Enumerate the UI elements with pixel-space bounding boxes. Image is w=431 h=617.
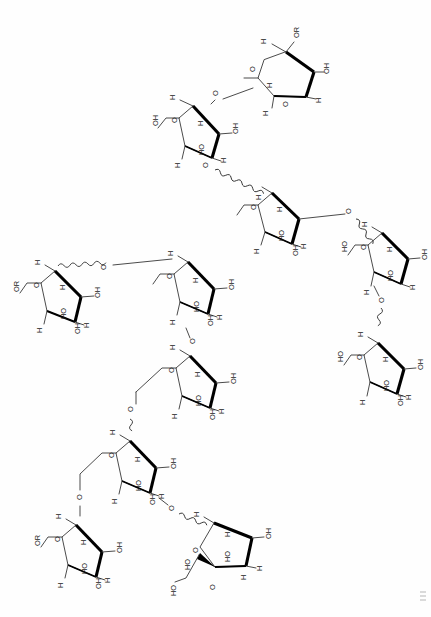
atom-label-oxygen: O bbox=[165, 273, 174, 279]
atom-label: H bbox=[255, 566, 264, 571]
atom-label-oxygen: O bbox=[359, 244, 368, 250]
atom-label-oxygen: O bbox=[211, 90, 220, 96]
atom-label: HO bbox=[277, 230, 286, 241]
ring-7b-center-lower-unit: H O OH H H H HO OH bbox=[136, 345, 238, 420]
atom-label: H bbox=[191, 278, 200, 283]
atom-label: HO bbox=[194, 395, 203, 406]
ring-7-center-main-chain-unit: H O OH H H H HO OH bbox=[153, 251, 236, 326]
link-7-16-glycosidic: O bbox=[126, 392, 136, 431]
atom-label: OH bbox=[229, 373, 238, 384]
atom-label: H bbox=[275, 207, 284, 212]
atom-label-oxygen: O bbox=[201, 162, 210, 168]
atom-label: OH bbox=[169, 458, 178, 469]
atom-label: H bbox=[217, 409, 226, 414]
atom-label: H bbox=[168, 95, 177, 100]
atom-label: H bbox=[79, 540, 88, 545]
link-5-wavy-glycosidic: O bbox=[58, 259, 172, 270]
page-corner-artifact bbox=[420, 591, 426, 605]
atom-label: OH bbox=[73, 323, 82, 334]
atom-label-or: OR bbox=[33, 535, 42, 546]
ring-10-bottom-right-furanose-unit: H O OH H H HO H HO HO O bbox=[169, 512, 273, 596]
atom-label: H bbox=[239, 575, 248, 580]
atom-label: H bbox=[259, 39, 268, 44]
atom-label: H bbox=[362, 290, 371, 295]
atom-label: H bbox=[58, 285, 67, 290]
atom-label: OH bbox=[115, 542, 124, 553]
atom-label-oxygen: O bbox=[249, 204, 258, 210]
atom-label: H bbox=[157, 494, 166, 499]
atom-label: H bbox=[168, 345, 177, 350]
atom-label-oxygen: O bbox=[248, 66, 257, 72]
atom-label: HO bbox=[382, 380, 391, 391]
atom-label: H bbox=[33, 260, 42, 265]
atom-label: OH bbox=[396, 395, 405, 406]
atom-label-oxygen: O bbox=[208, 584, 217, 590]
atom-label-oxygen: O bbox=[188, 338, 197, 344]
atom-label: HO bbox=[59, 308, 68, 319]
atom-label-oxygen: O bbox=[191, 547, 200, 553]
atom-label: H bbox=[133, 457, 142, 462]
atom-label: OH bbox=[93, 287, 102, 298]
atom-label: H bbox=[358, 400, 367, 405]
atom-label: H bbox=[381, 357, 390, 362]
atom-label: HO bbox=[223, 551, 232, 562]
atom-label: H bbox=[252, 249, 261, 254]
atom-label-oxygen: O bbox=[281, 101, 290, 107]
atom-label: H bbox=[170, 414, 179, 419]
atom-label-oxygen: O bbox=[167, 505, 176, 511]
atom-label: H bbox=[56, 583, 65, 588]
ring-5-right-lower-terminal-unit: H O HO OH H H H HO OH bbox=[336, 332, 425, 406]
atom-label: H bbox=[356, 332, 365, 337]
atom-label: H bbox=[193, 372, 202, 377]
atom-label: H bbox=[299, 244, 308, 249]
atom-label-oxygen: O bbox=[355, 354, 364, 360]
atom-label: H bbox=[404, 395, 413, 400]
atom-label: H bbox=[173, 163, 182, 168]
atom-label-oxygen: O bbox=[377, 297, 386, 303]
ring-6-center-left-terminal-unit: H O OR OH H H H HO OH bbox=[12, 260, 102, 334]
atom-label-oxygen: O bbox=[170, 117, 179, 123]
atom-label: H bbox=[223, 532, 232, 537]
atom-label: H bbox=[103, 578, 112, 583]
atom-label: OH bbox=[227, 279, 236, 290]
atom-label: HO bbox=[192, 301, 201, 312]
atom-label: H bbox=[219, 158, 228, 163]
atom-label: OH bbox=[420, 249, 429, 260]
atom-label: H bbox=[166, 251, 175, 256]
link-6-glycosidic: O bbox=[186, 328, 197, 344]
atom-label: H bbox=[265, 83, 274, 88]
atom-label: H bbox=[192, 512, 201, 517]
atom-label: HO bbox=[197, 144, 206, 155]
chemical-structure-svg: H OR OH H H O O H O H O OH OH H H H HO O bbox=[0, 0, 431, 617]
atom-label: H bbox=[168, 320, 177, 325]
atom-label: HO bbox=[80, 563, 89, 574]
atom-label: OH bbox=[148, 494, 157, 505]
link-1-glycosidic: O bbox=[211, 88, 253, 104]
atom-label-oxygen: O bbox=[107, 452, 116, 458]
atom-label: HO bbox=[386, 270, 395, 281]
link-4-wavy-glycosidic: O bbox=[374, 286, 386, 326]
atom-label: OH bbox=[151, 115, 160, 126]
ring-4-right-upper-unit: H O HO OH H H H HO bbox=[340, 222, 429, 295]
atom-label: H bbox=[360, 222, 369, 227]
atom-label-oxygen: O bbox=[32, 282, 41, 288]
link-8-16-glycosidic: O bbox=[75, 494, 84, 516]
atom-label: OH bbox=[416, 359, 425, 370]
atom-label: HO bbox=[169, 585, 178, 596]
atom-label-or: OR bbox=[292, 27, 301, 38]
ring-1-top-right-terminal-unit: H OR OH H H O O H bbox=[244, 27, 331, 116]
atom-label: HO bbox=[340, 241, 349, 252]
atom-label: H bbox=[254, 195, 263, 200]
structure-canvas: H OR OH H H O O H O H O OH OH H H H HO O bbox=[0, 0, 431, 617]
atom-label: OH bbox=[231, 123, 240, 134]
atom-label: OH bbox=[291, 245, 300, 256]
atom-label: H bbox=[261, 111, 270, 116]
atom-label: H bbox=[408, 285, 417, 290]
atom-label: H bbox=[54, 514, 63, 519]
atom-label-oxygen: O bbox=[344, 208, 353, 214]
atom-label: H bbox=[215, 315, 224, 320]
atom-label-oxygen: O bbox=[167, 367, 176, 373]
atom-label: H bbox=[196, 121, 205, 126]
ring-9-bottom-left-terminal-unit: H O OR OH H H H HO OH bbox=[33, 514, 124, 589]
atom-label: OH bbox=[94, 578, 103, 589]
